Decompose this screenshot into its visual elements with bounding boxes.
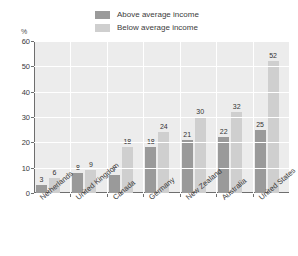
y-axis-tick-mark bbox=[31, 142, 34, 143]
bar-value-label: 30 bbox=[192, 108, 208, 115]
gridline-horizontal bbox=[34, 117, 289, 118]
legend-item-below[interactable]: Below average income bbox=[95, 23, 199, 33]
gridline-horizontal bbox=[34, 66, 289, 67]
bar-value-label: 3 bbox=[34, 176, 50, 183]
bar[interactable] bbox=[182, 140, 193, 193]
gridline-vertical bbox=[143, 41, 144, 193]
bar[interactable] bbox=[255, 130, 266, 193]
x-axis-labels: NetherlandsUnited KingdomCanadaGermanyNe… bbox=[34, 195, 289, 255]
x-axis-tick-mark bbox=[253, 194, 254, 197]
gridline-horizontal bbox=[34, 142, 289, 143]
gridline-vertical bbox=[180, 41, 181, 193]
legend-swatch-below-icon bbox=[95, 24, 110, 32]
gridline-horizontal bbox=[34, 168, 289, 169]
bar-value-label: 32 bbox=[229, 103, 245, 110]
y-axis-tick-label: 40 bbox=[10, 87, 30, 96]
chart-legend: Above average income Below average incom… bbox=[95, 10, 199, 33]
legend-swatch-above-icon bbox=[95, 11, 110, 19]
x-axis-tick-mark bbox=[143, 194, 144, 197]
y-axis-tick-mark bbox=[31, 117, 34, 118]
y-axis-tick-label: 0 bbox=[10, 189, 30, 198]
x-axis-tick-mark bbox=[180, 194, 181, 197]
y-axis-tick-mark bbox=[31, 66, 34, 67]
legend-item-above[interactable]: Above average income bbox=[95, 10, 199, 20]
y-axis-tick-label: 50 bbox=[10, 62, 30, 71]
y-axis-tick-mark bbox=[31, 92, 34, 93]
bar-value-label: 24 bbox=[156, 123, 172, 130]
y-axis-tick-label: 20 bbox=[10, 138, 30, 147]
plot-area: 36897181824213022322552 bbox=[34, 41, 289, 193]
gridline-horizontal bbox=[34, 92, 289, 93]
bar-chart: Above average income Below average incom… bbox=[0, 0, 298, 256]
legend-label-below: Below average income bbox=[117, 24, 198, 32]
bar-value-label: 25 bbox=[252, 121, 268, 128]
y-axis-unit-label: % bbox=[21, 28, 27, 35]
bar-value-label: 52 bbox=[265, 52, 281, 59]
y-axis-tick-label: 10 bbox=[10, 163, 30, 172]
y-axis-tick-label: 30 bbox=[10, 113, 30, 122]
y-axis-tick-mark bbox=[31, 168, 34, 169]
bar[interactable] bbox=[268, 61, 279, 193]
y-axis-tick-mark bbox=[31, 41, 34, 42]
x-axis-tick-mark bbox=[107, 194, 108, 197]
x-axis-tick-mark bbox=[216, 194, 217, 197]
bar[interactable] bbox=[145, 147, 156, 193]
gridline-horizontal bbox=[34, 41, 289, 42]
x-axis-tick-mark bbox=[70, 194, 71, 197]
y-axis-tick-label: 60 bbox=[10, 37, 30, 46]
chart-title bbox=[0, 0, 298, 5]
bar[interactable] bbox=[218, 137, 229, 193]
gridline-vertical bbox=[253, 41, 254, 193]
y-axis-tick-mark bbox=[31, 193, 34, 194]
legend-label-above: Above average income bbox=[117, 11, 199, 19]
bar-value-label: 22 bbox=[216, 128, 232, 135]
bar-value-label: 21 bbox=[179, 131, 195, 138]
